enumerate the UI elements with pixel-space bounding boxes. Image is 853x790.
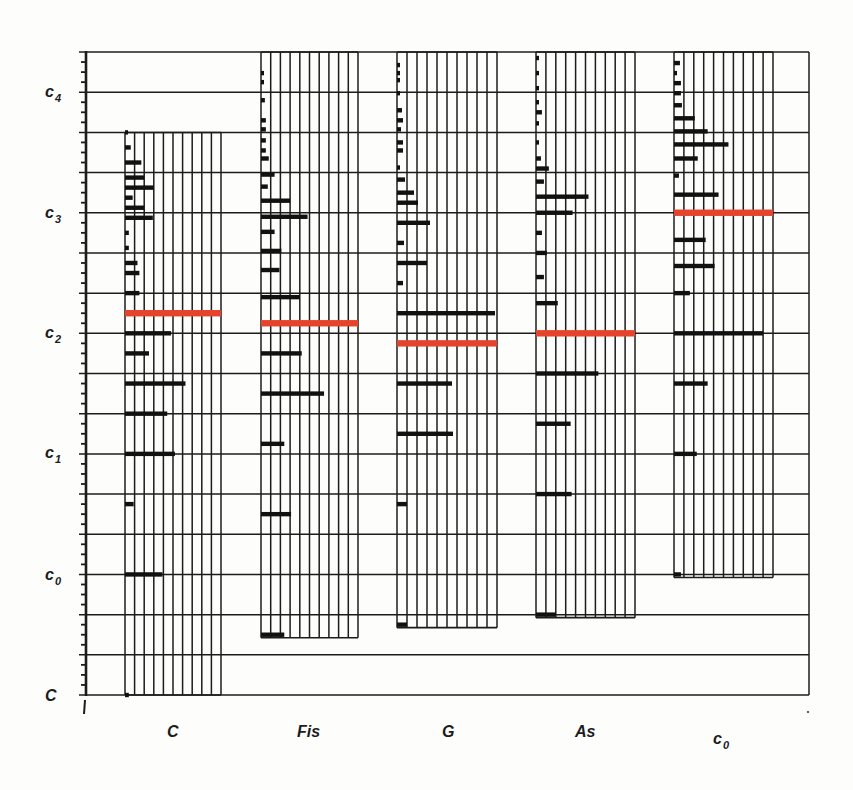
partial-bar [397, 432, 453, 436]
y-tick-label-c2: c2 [45, 325, 61, 342]
y-tick-label-subscript: 4 [55, 92, 61, 104]
partial-bar [397, 108, 402, 112]
partial-bar [397, 71, 400, 75]
partial-bar [674, 173, 679, 177]
partial-bar [261, 512, 291, 516]
partial-bar [125, 351, 149, 355]
partial-bar [125, 175, 144, 179]
partial-bar [397, 502, 407, 506]
partial-bar [674, 156, 698, 160]
partial-bar [125, 185, 154, 189]
x-label-G: G [442, 724, 455, 741]
partial-bar [397, 201, 418, 205]
x-label-C: C [167, 724, 180, 741]
partial-bar [125, 271, 139, 275]
partial-bar [125, 452, 175, 456]
partial-bar [536, 301, 558, 305]
partial-bar [261, 118, 266, 122]
partial-bar [261, 198, 290, 202]
y-tick-label-base: c [45, 324, 54, 341]
x-label-base: As [575, 723, 595, 740]
partial-bar [674, 61, 680, 65]
partial-bar [536, 422, 571, 426]
partial-bar [397, 63, 400, 67]
partial-bar [397, 261, 427, 265]
partial-bar [125, 291, 139, 295]
partial-bar [125, 206, 144, 210]
partial-bar [397, 381, 452, 385]
partial-bar [261, 98, 265, 102]
partial-bar [125, 331, 171, 335]
partial-bar [261, 351, 302, 355]
partial-bar [261, 80, 264, 84]
y-tick-label-subscript: 2 [55, 333, 61, 345]
partial-bar [397, 241, 404, 245]
partial-bar [125, 411, 167, 415]
y-tick-label-base: c [45, 83, 54, 100]
column-As [536, 52, 635, 618]
partial-bar [125, 261, 137, 265]
partial-bar [261, 249, 281, 253]
x-label-Fis: Fis [297, 724, 321, 741]
partial-bar [674, 103, 682, 107]
partial-bar [536, 100, 539, 104]
partial-bar [536, 166, 549, 170]
y-tick-label-base: c [45, 204, 54, 221]
partial-bar [536, 86, 539, 90]
partial-bar [674, 381, 708, 385]
partial-bar [536, 179, 544, 183]
partial-bar [397, 148, 403, 152]
y-tick-label-C: C [45, 688, 58, 705]
y-tick-label-base: c [45, 444, 54, 461]
partial-bar [674, 116, 695, 120]
partial-bar [125, 693, 129, 697]
partial-bar [674, 452, 697, 456]
partial-bar [674, 192, 719, 196]
partial-bar [261, 184, 268, 188]
partial-bar [674, 572, 681, 576]
partial-bar [536, 492, 572, 496]
partial-bar [536, 110, 542, 114]
partial-bar [397, 140, 403, 144]
y-tick-label-base: C [45, 687, 57, 704]
partial-bar [397, 91, 400, 95]
highlight-bar [674, 210, 773, 216]
y-tick-label-subscript: 0 [55, 575, 61, 587]
partial-bar [397, 177, 405, 181]
y-tick-label-subscript: 3 [55, 213, 61, 225]
column-G [397, 52, 497, 628]
x-label-base: c [713, 730, 722, 747]
partial-bar [674, 129, 708, 133]
partial-bar [397, 190, 414, 194]
chart-page: c4 c3 c2 c1 c0 C C Fis G As c0 [0, 0, 853, 790]
partial-bar [125, 160, 141, 164]
partial-bar [536, 275, 544, 279]
highlight-bar [261, 320, 358, 326]
partial-bar [674, 81, 681, 85]
partial-bar [674, 91, 681, 95]
x-label-base: C [167, 723, 179, 740]
partial-bar [674, 142, 728, 146]
column-c0 [674, 52, 773, 577]
partial-bar [261, 442, 284, 446]
partial-bar [125, 246, 129, 250]
partial-bar [397, 221, 430, 225]
partial-bar [674, 264, 715, 268]
partial-bar [397, 165, 400, 169]
partial-bar [125, 381, 185, 385]
partial-bar [261, 156, 269, 160]
partial-bar [536, 121, 539, 125]
partial-bar [397, 78, 400, 82]
partial-bar [261, 148, 266, 152]
y-tick-label-subscript: 1 [55, 453, 61, 465]
column-Fis [261, 52, 358, 638]
partial-bar [536, 231, 542, 235]
partial-bar [261, 215, 308, 219]
partial-bar [125, 502, 134, 506]
x-label-As: As [575, 724, 596, 741]
x-label-base: Fis [297, 723, 320, 740]
partial-bar [536, 140, 539, 144]
partial-bar [397, 127, 401, 131]
partial-bar [536, 56, 539, 60]
partial-bar [674, 238, 706, 242]
